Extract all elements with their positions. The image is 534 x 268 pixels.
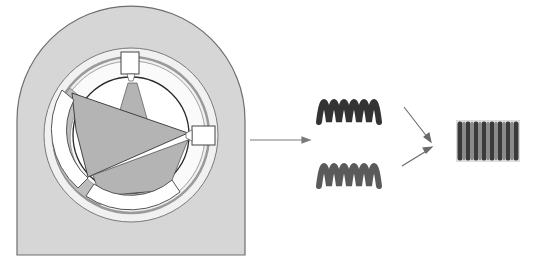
spring-combined [456, 120, 520, 162]
spring-bottom [319, 166, 379, 186]
arrow-bottom-to-combined [402, 147, 432, 166]
arrow-main [250, 137, 310, 143]
spring-top [319, 102, 379, 122]
block-right [192, 126, 215, 145]
arrow-top-to-combined [404, 107, 431, 142]
block-top [121, 52, 139, 74]
housing [17, 6, 245, 255]
diagram-canvas [0, 0, 534, 268]
